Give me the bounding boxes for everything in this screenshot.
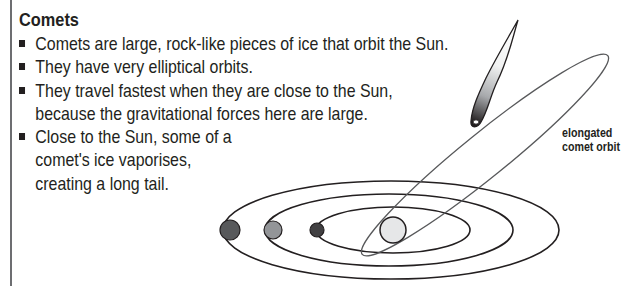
comet-tail-icon bbox=[471, 20, 518, 127]
comet-orbit-label: elongated comet orbit bbox=[562, 126, 620, 154]
comet-orbit-label-line1: elongated bbox=[562, 126, 620, 140]
inner-planet-icon bbox=[310, 223, 324, 237]
comet-nucleus-icon bbox=[473, 120, 479, 124]
comet-icon bbox=[471, 20, 518, 127]
solar-system-diagram bbox=[0, 0, 635, 286]
comet-orbit-label-line2: comet orbit bbox=[562, 140, 620, 154]
outer-planet-icon bbox=[220, 220, 240, 240]
sun-icon bbox=[380, 217, 406, 243]
middle-planet-icon bbox=[264, 221, 282, 239]
